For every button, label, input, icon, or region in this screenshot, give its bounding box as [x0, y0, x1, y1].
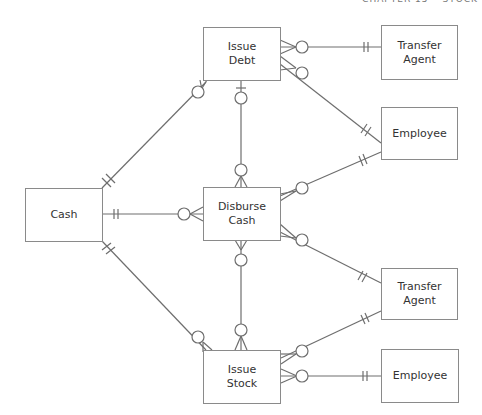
entity-label: Employee: [392, 127, 446, 141]
rel-issuedebt-transferagent: [280, 40, 381, 54]
rel-disbursecash-issuestock: [235, 240, 247, 350]
entity-cash: Cash: [25, 188, 103, 242]
rel-disbursecash-employee: [280, 152, 381, 201]
entity-employee-bottom: Employee: [381, 349, 459, 403]
entity-transfer-agent-top: Transfer Agent: [381, 25, 458, 80]
rel-issuestock-employee: [281, 369, 381, 383]
entity-label: Transfer: [397, 280, 441, 294]
rel-issuedebt-disbursecash: [235, 80, 247, 187]
entity-label: Debt: [228, 54, 256, 68]
entity-employee-top: Employee: [381, 107, 458, 160]
entity-issue-stock: Issue Stock: [203, 350, 281, 404]
rel-issuestock-transferagent: [281, 311, 381, 364]
entity-disburse-cash: Disburse Cash: [203, 187, 281, 241]
entity-label: Agent: [397, 53, 441, 67]
rel-cash-disbursecash: [102, 207, 203, 221]
entity-label: Transfer: [397, 39, 441, 53]
rel-issuedebt-employee: [280, 56, 381, 143]
entity-label: Disburse: [218, 200, 266, 214]
entity-transfer-agent-bottom: Transfer Agent: [381, 268, 458, 320]
entity-label: Cash: [50, 208, 77, 222]
entity-label: Agent: [397, 294, 441, 308]
entity-issue-debt: Issue Debt: [203, 27, 281, 81]
rel-cash-issuestock: [102, 241, 212, 352]
rel-cash-issuedebt: [102, 80, 207, 188]
entity-label: Cash: [218, 214, 266, 228]
rel-disbursecash-transferagent: [280, 224, 381, 283]
entity-label: Issue: [227, 363, 257, 377]
entity-label: Stock: [227, 377, 257, 391]
entity-label: Issue: [228, 40, 256, 54]
entity-label: Employee: [393, 369, 447, 383]
